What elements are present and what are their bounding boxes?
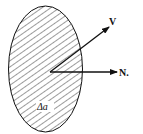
diagram-canvas: Δa V N. <box>0 0 143 134</box>
velocity-label: V <box>109 16 117 27</box>
area-label: Δa <box>36 101 48 112</box>
area-element <box>9 6 83 132</box>
normal-label: N. <box>119 67 129 78</box>
